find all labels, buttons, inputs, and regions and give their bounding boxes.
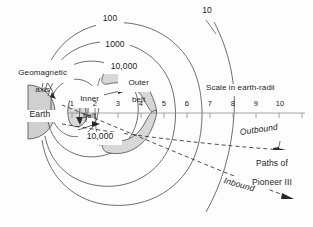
- contour-label-10: 10: [198, 6, 216, 15]
- axis-tick-label-8: 8: [227, 100, 239, 108]
- geomagnetic-axis-label-line1: Geomagnetic: [18, 68, 67, 77]
- contour-label-100: 100: [96, 14, 124, 23]
- pioneer-paths-label-line1: Paths of: [256, 158, 288, 168]
- earth-label: Earth: [24, 110, 56, 119]
- axis-tick-label-9: 9: [250, 100, 262, 108]
- axis-tick-label-2: 2: [89, 100, 101, 108]
- axis-tick-label-10: 10: [272, 100, 288, 108]
- inner-belt-label-line2: belt: [83, 111, 96, 120]
- axis-tick-label-1: 1: [66, 100, 78, 108]
- contour-label-1000: 1000: [100, 40, 130, 49]
- outer-belt-label-line1: Outer: [128, 78, 149, 87]
- axis-tick-label-3: 3: [112, 100, 124, 108]
- geomagnetic-axis-label-line2: axis: [35, 85, 50, 94]
- axis-tick-label-6: 6: [181, 100, 193, 108]
- geomagnetic-axis-label: Geomagnetic axis: [2, 60, 74, 103]
- contour-label-10000-lower: 10,000: [78, 132, 122, 141]
- pioneer-paths-label-line2: Pioneer III: [252, 177, 292, 187]
- axis-tick-label-7: 7: [204, 100, 216, 108]
- scale-caption: Scale in earth-radii: [206, 84, 275, 93]
- axis-tick-label-5: 5: [158, 100, 170, 108]
- axis-tick-label-4: 4: [135, 100, 147, 108]
- radiation-belt-figure: 100 1000 10,000 10,000 10 Geomagnetic ax…: [0, 0, 313, 227]
- scale-axis-ticks: [72, 113, 302, 118]
